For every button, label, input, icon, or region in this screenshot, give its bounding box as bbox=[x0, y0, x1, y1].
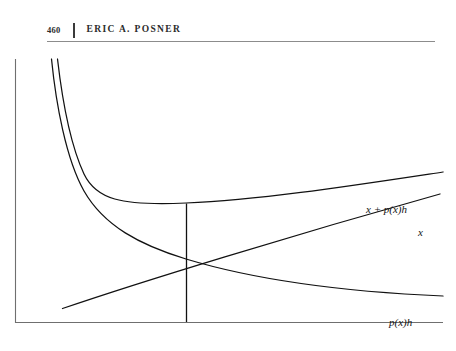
figure-chart: x + p(x)h x p(x)h x* bbox=[0, 46, 456, 351]
curve-expected-harm bbox=[52, 59, 444, 296]
running-head-inner: 460 ERIC A. POSNER bbox=[47, 22, 181, 38]
curve-label-precaution-cost: x bbox=[418, 227, 423, 238]
running-head-rule bbox=[47, 41, 435, 42]
running-head-title: ERIC A. POSNER bbox=[87, 25, 182, 35]
curve-label-expected-harm: p(x)h bbox=[389, 317, 412, 328]
chart-axes bbox=[16, 59, 444, 323]
page-folio: 460 bbox=[47, 26, 60, 35]
running-head: 460 ERIC A. POSNER bbox=[0, 0, 456, 46]
running-head-divider bbox=[73, 23, 74, 38]
curve-total-cost bbox=[58, 59, 444, 204]
curve-label-total-cost: x + p(x)h bbox=[366, 204, 407, 215]
chart-svg bbox=[0, 46, 456, 351]
